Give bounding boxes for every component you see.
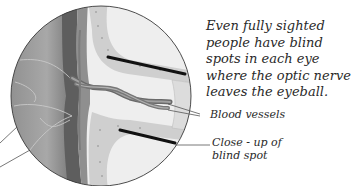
caption-line: leaves the eyeball. [206, 84, 356, 101]
caption-line: people have blind [206, 35, 356, 52]
closeup-label-line: blind spot [212, 150, 282, 163]
caption-line: spots in each eye [206, 51, 356, 68]
caption-line: Even fully sighted [206, 18, 356, 35]
closeup-label-line: Close - up of [212, 137, 282, 150]
caption-line: where the optic nerve [206, 68, 356, 85]
closeup-blind-spot-label: Close - up of blind spot [212, 137, 282, 162]
blood-vessels-label: Blood vessels [210, 109, 285, 122]
description-caption: Even fully sighted people have blind spo… [206, 18, 356, 101]
magnified-view [0, 0, 200, 186]
